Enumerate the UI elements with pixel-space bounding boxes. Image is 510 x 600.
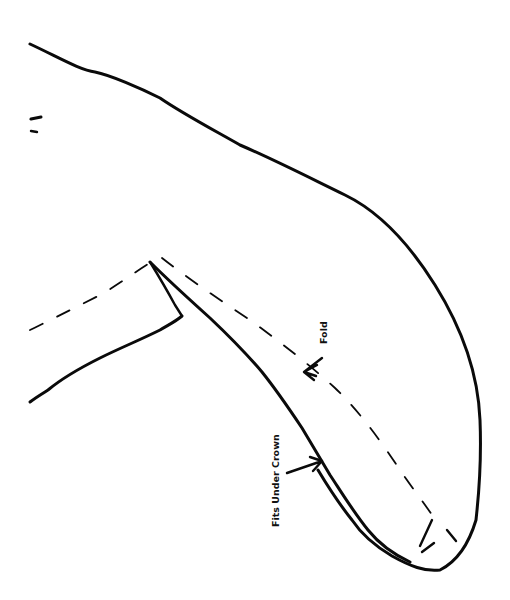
outer-outline: [30, 44, 481, 570]
tip-mark-3: [447, 530, 456, 541]
fits-under-crown-label: Fits Under Crown: [270, 434, 281, 527]
tip-mark-2: [422, 543, 434, 552]
pattern-drawing: [0, 0, 510, 600]
fold-dashed-line: [162, 258, 432, 515]
notch-mark-2: [31, 131, 37, 132]
tip-mark-1: [420, 520, 432, 546]
pattern-canvas: Fold Fits Under Crown: [0, 0, 510, 600]
fold-label: Fold: [318, 321, 329, 344]
flap-dashed-line: [30, 264, 148, 330]
flap-bottom-edge: [30, 316, 182, 402]
notch-mark-1: [31, 117, 41, 119]
